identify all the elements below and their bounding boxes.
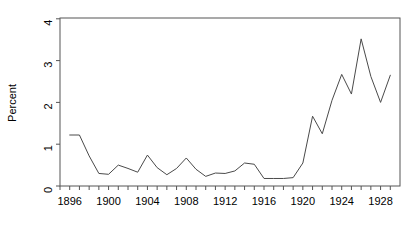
y-tick-label: 3 (42, 62, 54, 68)
x-tick-label: 1924 (329, 195, 353, 207)
x-tick-label: 1920 (291, 195, 315, 207)
y-tick-label: 4 (42, 20, 54, 26)
x-tick-label: 1916 (252, 195, 276, 207)
y-tick-label: 0 (42, 187, 54, 193)
x-tick-label: 1904 (135, 195, 159, 207)
line-chart: 01234 1896190019041908191219161920192419… (0, 0, 413, 229)
x-tick-label: 1896 (57, 195, 81, 207)
y-axis-title: Percent (6, 84, 18, 122)
y-tick-label: 2 (42, 103, 54, 109)
x-tick-label: 1928 (368, 195, 392, 207)
chart-container: 01234 1896190019041908191219161920192419… (0, 0, 413, 229)
x-axis-tick-labels: 189619001904190819121916192019241928 (57, 195, 392, 207)
x-tick-label: 1908 (174, 195, 198, 207)
y-tick-label: 1 (42, 145, 54, 151)
x-tick-label: 1912 (213, 195, 237, 207)
x-tick-label: 1900 (96, 195, 120, 207)
